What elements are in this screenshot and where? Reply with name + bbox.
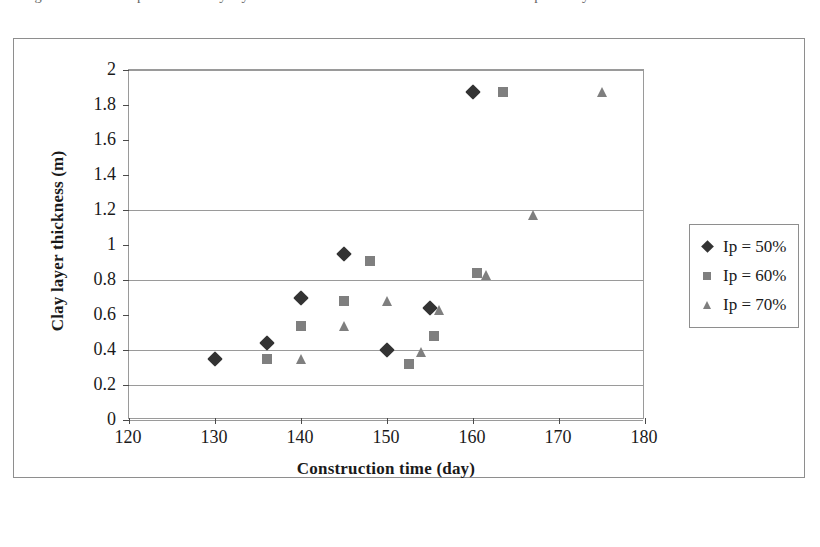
y-tick-mark [123,315,129,316]
y-tick-label: 1.8 [94,94,117,115]
y-tick-mark [123,385,129,386]
legend-label: Ip = 70% [723,295,786,315]
figure-caption-strip: Figure. Relationship between clay layer … [0,0,820,22]
x-tick-label: 130 [201,427,228,448]
y-tick-label: 1.4 [94,164,117,185]
data-point-diamond [207,351,223,367]
triangle-glyph [703,301,711,309]
y-tick-label: 1 [107,234,116,255]
legend-item: Ip = 70% [699,290,786,319]
data-point-square [296,321,306,331]
y-tick-label: 0.8 [94,269,117,290]
y-tick-mark [123,175,129,176]
x-tick-label: 180 [631,427,658,448]
data-point-triangle [339,321,349,331]
x-tick-label: 160 [459,427,486,448]
plot-area [128,69,644,419]
x-tick-mark [301,418,302,424]
square-marker-icon [699,272,715,280]
legend-item: Ip = 50% [699,232,786,261]
data-point-triangle [434,305,444,315]
y-tick-label: 0.4 [94,339,117,360]
data-point-diamond [336,246,352,262]
x-tick-label: 140 [287,427,314,448]
legend-item: Ip = 60% [699,261,786,290]
gridline [129,385,643,386]
data-point-square [365,256,375,266]
y-tick-label: 0.2 [94,374,117,395]
data-point-diamond [465,84,481,100]
square-glyph [703,272,711,280]
y-tick-label: 0.6 [94,304,117,325]
data-point-triangle [528,210,538,220]
figure-caption-text: Figure. Relationship between clay layer … [22,0,626,4]
x-tick-label: 170 [545,427,572,448]
y-tick-mark [123,210,129,211]
x-tick-mark [387,418,388,424]
data-point-triangle [296,354,306,364]
y-tick-label: 1.2 [94,199,117,220]
figure-frame: 00.20.40.60.811.21.41.61.82 Clay layer t… [13,38,805,478]
x-tick-mark [473,418,474,424]
data-point-square [404,359,414,369]
x-tick-label: 150 [373,427,400,448]
data-point-square [339,296,349,306]
x-tick-mark [559,418,560,424]
y-axis-tick-labels: 00.20.40.60.811.21.41.61.82 [62,69,124,419]
data-point-square [262,354,272,364]
gridline [129,280,643,281]
x-axis-tick-labels: 120130140150160170180 [128,427,644,453]
gridline [129,420,643,421]
gridline [129,210,643,211]
x-tick-mark [645,418,646,424]
y-tick-mark [123,350,129,351]
y-tick-label: 1.6 [94,129,117,150]
data-point-diamond [259,335,275,351]
y-tick-mark [123,245,129,246]
y-tick-mark [123,140,129,141]
x-tick-label: 120 [115,427,142,448]
data-point-triangle [597,87,607,97]
data-point-triangle [416,347,426,357]
data-point-square [498,87,508,97]
diamond-marker-icon [699,242,715,251]
y-tick-label: 2 [107,59,116,80]
diamond-glyph [701,240,714,253]
data-point-diamond [379,342,395,358]
chart-legend: Ip = 50%Ip = 60%Ip = 70% [689,224,799,328]
gridline [129,70,643,71]
triangle-marker-icon [699,301,715,309]
y-axis-title: Clay layer thickness (m) [48,66,68,416]
y-tick-mark [123,70,129,71]
legend-label: Ip = 50% [723,237,786,257]
x-tick-mark [129,418,130,424]
data-point-triangle [382,296,392,306]
x-tick-mark [215,418,216,424]
data-point-square [429,331,439,341]
data-point-diamond [293,290,309,306]
y-tick-mark [123,105,129,106]
x-axis-title: Construction time (day) [128,459,644,479]
data-point-triangle [481,270,491,280]
legend-label: Ip = 60% [723,266,786,286]
y-tick-mark [123,280,129,281]
